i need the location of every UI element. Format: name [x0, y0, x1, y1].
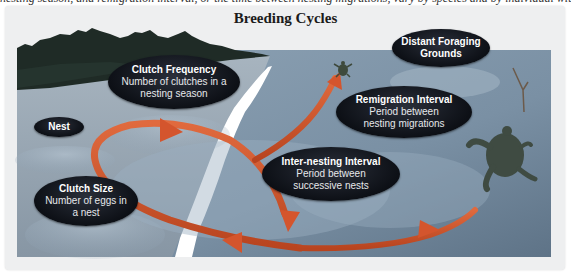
nest-heading: Nest: [48, 121, 70, 133]
label-nest: Nest: [34, 117, 84, 137]
foraging-heading-2: Grounds: [420, 48, 462, 60]
clutch-size-desc-1: Number of eggs in: [45, 195, 127, 207]
label-remigration-interval: Remigration Interval Period between nest…: [336, 86, 472, 138]
foraging-heading: Distant Foraging: [401, 36, 480, 48]
label-clutch-frequency: Clutch Frequency Number of clutches in a…: [108, 55, 240, 109]
remigration-heading: Remigration Interval: [356, 94, 453, 106]
label-distant-foraging-grounds: Distant Foraging Grounds: [392, 29, 490, 67]
diagram-title: Breeding Cycles: [0, 10, 571, 27]
clutch-frequency-desc-1: Number of clutches in a: [121, 76, 226, 88]
clutch-frequency-heading: Clutch Frequency: [132, 64, 216, 76]
label-clutch-size: Clutch Size Number of eggs in a nest: [34, 176, 138, 226]
inter-nesting-heading: Inter-nesting Interval: [282, 156, 381, 168]
clutch-size-heading: Clutch Size: [59, 183, 113, 195]
label-inter-nesting-interval: Inter-nesting Interval Period between su…: [262, 147, 400, 201]
clutch-frequency-desc-2: nesting season: [140, 88, 207, 100]
clutch-size-desc-2: a nest: [72, 207, 99, 219]
remigration-desc-2: nesting migrations: [363, 118, 444, 130]
inter-nesting-desc-2: successive nests: [293, 180, 369, 192]
remigration-desc-1: Period between: [369, 106, 439, 118]
inter-nesting-desc-1: Period between: [296, 168, 366, 180]
